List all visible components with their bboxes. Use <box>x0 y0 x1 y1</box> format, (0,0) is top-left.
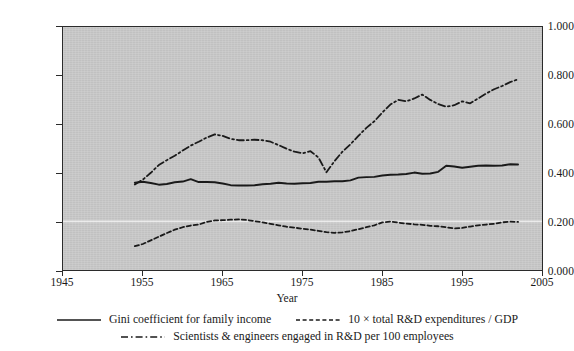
legend-row-1: Gini coefficient for family income 10 × … <box>0 311 574 328</box>
x-tick-label-1995: 1995 <box>432 276 492 288</box>
series-canvas <box>63 27 542 270</box>
legend-swatch-dashdot <box>120 333 166 341</box>
series-line <box>135 164 518 185</box>
legend-row-2: Scientists & engineers engaged in R&D pe… <box>0 328 574 345</box>
series-line <box>135 79 518 184</box>
chart-figure: 1.000 0.800 0.600 0.400 0.200 0.000 1945… <box>0 0 574 351</box>
legend-label-gini: Gini coefficient for family income <box>109 313 271 326</box>
legend-swatch-dashed <box>295 316 341 324</box>
legend-label-scientists: Scientists & engineers engaged in R&D pe… <box>173 330 453 343</box>
legend-label-rnd-gdp: 10 × total R&D expenditures / GDP <box>348 313 518 326</box>
legend-entry-scientists: Scientists & engineers engaged in R&D pe… <box>120 330 453 343</box>
legend-entry-rnd-gdp: 10 × total R&D expenditures / GDP <box>295 313 518 326</box>
x-tick-label-1955: 1955 <box>112 276 172 288</box>
x-tick-label-1945: 1945 <box>32 276 92 288</box>
x-tick-label-1975: 1975 <box>272 276 332 288</box>
legend-entry-gini: Gini coefficient for family income <box>56 313 271 326</box>
x-tick-label-2005: 2005 <box>512 276 572 288</box>
plot-area <box>62 26 543 271</box>
x-axis-title: Year <box>0 292 574 304</box>
x-tick-label-1985: 1985 <box>352 276 412 288</box>
chart-legend: Gini coefficient for family income 10 × … <box>0 311 574 345</box>
x-tick-label-1965: 1965 <box>192 276 252 288</box>
series-line <box>135 219 518 246</box>
legend-swatch-solid <box>56 316 102 324</box>
